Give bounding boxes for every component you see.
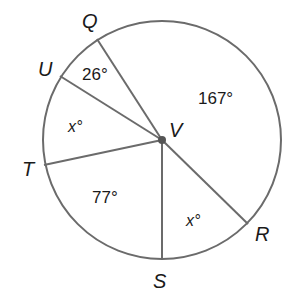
radius-vt [44, 140, 162, 165]
angle-label-r-q: 167° [198, 89, 233, 108]
point-label-q: Q [82, 10, 98, 32]
center-point-v [158, 136, 166, 144]
point-label-u: U [38, 58, 53, 80]
angle-label-u-t: x° [67, 118, 83, 135]
point-label-r: R [255, 223, 269, 245]
point-label-v: V [169, 119, 184, 141]
circle-diagram: QUTSRV26°x°77°x°167° [0, 0, 292, 303]
radii [44, 39, 248, 259]
labels: QUTSRV26°x°77°x°167° [22, 10, 269, 292]
angle-label-s-r: x° [185, 212, 201, 229]
point-label-s: S [153, 270, 167, 292]
angle-label-q-u: 26° [82, 65, 108, 84]
angle-label-t-s: 77° [92, 188, 118, 207]
radius-vr [162, 140, 248, 224]
radius-vq [97, 39, 162, 140]
point-label-t: T [22, 158, 36, 180]
